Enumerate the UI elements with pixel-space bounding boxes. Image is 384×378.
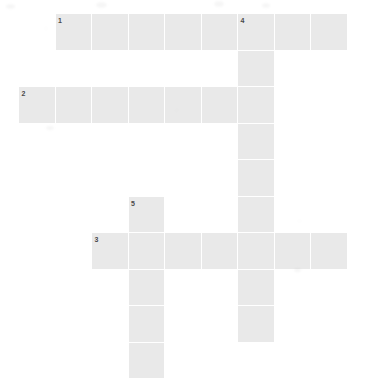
crossword-cell[interactable] (129, 270, 165, 306)
crossword-cell[interactable] (275, 14, 311, 50)
clue-number-2: 2 (22, 90, 26, 97)
crossword-cell[interactable] (129, 306, 165, 342)
crossword-cell[interactable] (165, 233, 201, 269)
crossword-cell[interactable] (129, 343, 165, 378)
crossword-cell[interactable] (202, 87, 238, 123)
crossword-cell[interactable] (165, 14, 201, 50)
crossword-cell[interactable] (92, 87, 128, 123)
crossword-cell[interactable] (238, 197, 274, 233)
crossword-cell[interactable] (238, 124, 274, 160)
crossword-cell[interactable] (238, 306, 274, 342)
crossword-cell[interactable] (56, 87, 92, 123)
crossword-cell[interactable] (129, 233, 165, 269)
crossword-cell[interactable] (238, 233, 274, 269)
clue-number-1: 1 (58, 17, 62, 24)
crossword-cell[interactable] (311, 14, 347, 50)
clue-number-4: 4 (241, 17, 245, 24)
crossword-cell[interactable] (238, 160, 274, 196)
crossword-cell[interactable] (202, 14, 238, 50)
clue-number-3: 3 (95, 236, 99, 243)
crossword-cell[interactable] (238, 270, 274, 306)
crossword-cell[interactable] (238, 51, 274, 87)
crossword-cell[interactable] (275, 233, 311, 269)
crossword-cell[interactable] (129, 87, 165, 123)
crossword-cell[interactable] (311, 233, 347, 269)
crossword-cell[interactable] (165, 87, 201, 123)
crossword-cell[interactable] (202, 233, 238, 269)
crossword-cell[interactable] (238, 87, 274, 123)
clue-number-5: 5 (131, 200, 135, 207)
crossword-cell[interactable] (129, 14, 165, 50)
crossword-cell[interactable] (92, 14, 128, 50)
